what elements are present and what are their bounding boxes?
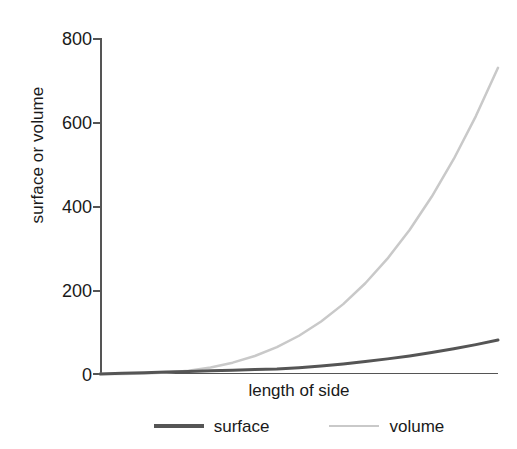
y-tick-mark-200: [93, 290, 100, 292]
y-tick-label-600: 600: [34, 114, 92, 132]
legend-entry-surface: surface: [154, 418, 270, 435]
y-axis-tick-labels: 800 600 400 200 0: [34, 0, 92, 449]
chart-curves: [100, 38, 498, 374]
y-tick-label-400: 400: [34, 198, 92, 216]
legend-swatch-surface-icon: [154, 424, 204, 428]
surface-series-line: [100, 340, 498, 374]
chart-figure: surface or volume 800 600 400 200 0 leng…: [0, 0, 517, 449]
chart-legend: surface volume: [100, 412, 498, 440]
y-tick-mark-600: [93, 122, 100, 124]
y-tick-label-0: 0: [34, 366, 92, 384]
y-tick-mark-800: [93, 38, 100, 40]
y-tick-mark-400: [93, 206, 100, 208]
y-tick-label-800: 800: [34, 30, 92, 48]
plot-area: [100, 38, 498, 374]
legend-swatch-volume-icon: [329, 425, 379, 427]
volume-series-line: [100, 68, 498, 374]
legend-entry-volume: volume: [329, 418, 444, 435]
y-tick-label-200: 200: [34, 282, 92, 300]
legend-label-volume: volume: [389, 418, 444, 435]
x-axis-title: length of side: [100, 381, 498, 401]
legend-label-surface: surface: [214, 418, 270, 435]
